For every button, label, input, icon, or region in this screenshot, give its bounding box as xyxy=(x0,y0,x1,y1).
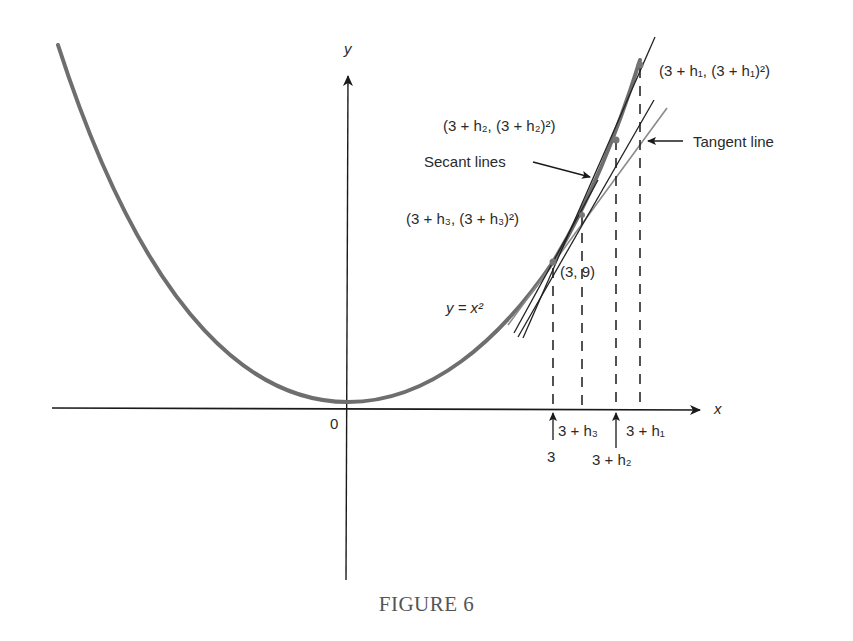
point-h2 xyxy=(613,137,620,144)
secant-line-2 xyxy=(518,100,654,337)
point-label-h3: (3 + h₃, (3 + h₃)²) xyxy=(406,210,519,227)
point-label-h2: (3 + h₂, (3 + h₂)²) xyxy=(443,117,556,134)
x-axis-label: x xyxy=(714,400,722,417)
y-axis-label: y xyxy=(344,40,352,57)
figure-canvas xyxy=(0,0,853,641)
x-axis xyxy=(52,408,700,410)
origin-label: 0 xyxy=(330,415,338,432)
tick-label-h3: 3 + h₃ xyxy=(558,422,598,439)
tangent-line-label: Tangent line xyxy=(693,133,774,150)
secant-line-3 xyxy=(514,180,598,333)
point-h3 xyxy=(579,212,585,218)
tick-label-h2: 3 + h₂ xyxy=(592,451,632,468)
point-h1 xyxy=(637,62,644,69)
tick-label-h1: 3 + h₁ xyxy=(626,422,665,439)
y-axis xyxy=(346,76,348,580)
tick-label-3: 3 xyxy=(547,448,555,465)
figure-caption: FIGURE 6 xyxy=(0,592,853,617)
secant-lines-label: Secant lines xyxy=(424,153,506,170)
point-3-9 xyxy=(550,259,557,266)
point-label-3-9: (3, 9) xyxy=(560,263,595,280)
point-label-h1: (3 + h₁, (3 + h₁)²) xyxy=(659,62,770,79)
secant-pointer-arrow xyxy=(533,162,590,177)
curve-label: y = x² xyxy=(446,299,483,316)
